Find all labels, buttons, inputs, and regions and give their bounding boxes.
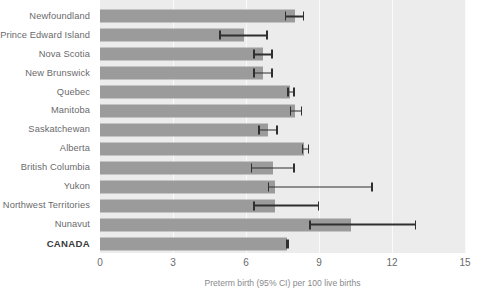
error-bar-line xyxy=(268,186,373,187)
error-bar-cap-hi xyxy=(293,88,294,97)
error-bar-line xyxy=(258,129,277,130)
bar-row xyxy=(100,45,465,64)
bar xyxy=(100,161,273,174)
bar-row xyxy=(100,215,465,234)
x-tick-label: 15 xyxy=(459,257,470,268)
error-bar-cap-lo xyxy=(219,31,220,40)
bar-row xyxy=(100,234,465,253)
bar-row xyxy=(100,177,465,196)
error-bar-cap-lo xyxy=(309,220,310,229)
bar xyxy=(100,67,263,80)
category-label: Newfoundland xyxy=(0,7,96,26)
error-bar-cap-hi xyxy=(293,163,294,172)
error-bar-cap-hi xyxy=(266,31,267,40)
error-bar-cap-lo xyxy=(253,50,254,59)
error-bar-cap-hi xyxy=(271,50,272,59)
error-bar xyxy=(287,88,294,97)
bar xyxy=(100,48,263,61)
error-bar-cap-lo xyxy=(258,125,259,134)
error-bar-cap-lo xyxy=(287,88,288,97)
error-bar-cap-hi xyxy=(271,69,272,78)
plot-area xyxy=(100,0,465,253)
category-label: Manitoba xyxy=(0,102,96,121)
bar xyxy=(100,180,275,193)
category-label: British Columbia xyxy=(0,158,96,177)
error-bar-cap-lo xyxy=(268,182,269,191)
category-label: Saskatchewan xyxy=(0,121,96,140)
error-bar-line xyxy=(253,205,319,206)
error-bar xyxy=(286,239,289,248)
error-bar-line xyxy=(309,224,416,225)
error-bar xyxy=(285,12,304,21)
error-bar-cap-lo xyxy=(253,201,254,210)
bar-row xyxy=(100,102,465,121)
error-bar xyxy=(253,69,272,78)
error-bar-cap-hi xyxy=(276,125,277,134)
error-bar-cap-lo xyxy=(251,163,252,172)
error-bar-line xyxy=(251,167,295,168)
bar-row xyxy=(100,158,465,177)
x-tick-label: 0 xyxy=(97,257,103,268)
error-bar-cap-hi xyxy=(288,239,289,248)
x-tick-label: 3 xyxy=(170,257,176,268)
bar-row xyxy=(100,139,465,158)
x-axis: 03691215 xyxy=(100,253,465,275)
bar-row xyxy=(100,121,465,140)
bar-row xyxy=(100,64,465,83)
bar-rows xyxy=(100,7,465,253)
category-label: Yukon xyxy=(0,177,96,196)
error-bar-cap-hi xyxy=(303,12,304,21)
error-bar-cap-lo xyxy=(253,69,254,78)
error-bar-cap-hi xyxy=(318,201,319,210)
preterm-birth-bar-chart: NewfoundlandPrince Edward IslandNova Sco… xyxy=(0,0,481,289)
category-labels-column: NewfoundlandPrince Edward IslandNova Sco… xyxy=(0,7,96,253)
error-bar-line xyxy=(285,16,304,17)
error-bar-line xyxy=(253,73,272,74)
category-label: Nova Scotia xyxy=(0,45,96,64)
error-bar-cap-lo xyxy=(302,144,303,153)
category-label: Alberta xyxy=(0,139,96,158)
x-tick-label: 6 xyxy=(243,257,249,268)
error-bar-cap-hi xyxy=(301,107,302,116)
bar xyxy=(100,199,275,212)
bar-row xyxy=(100,83,465,102)
bar xyxy=(100,105,295,118)
error-bar-line xyxy=(253,54,272,55)
error-bar-cap-hi xyxy=(371,182,372,191)
bar-row xyxy=(100,26,465,45)
gridline xyxy=(465,0,466,253)
error-bar xyxy=(219,31,268,40)
error-bar xyxy=(258,125,277,134)
category-label: New Brunswick xyxy=(0,64,96,83)
category-label: Northwest Territories xyxy=(0,196,96,215)
error-bar xyxy=(268,182,373,191)
error-bar-cap-lo xyxy=(290,107,291,116)
bar xyxy=(100,86,290,99)
category-label: CANADA xyxy=(0,234,96,253)
bar xyxy=(100,237,287,250)
error-bar-cap-hi xyxy=(308,144,309,153)
x-axis-caption: Preterm birth (95% CI) per 100 live birt… xyxy=(100,278,465,289)
category-label: Quebec xyxy=(0,83,96,102)
category-label: Prince Edward Island xyxy=(0,26,96,45)
error-bar-cap-hi xyxy=(415,220,416,229)
error-bar-cap-lo xyxy=(285,12,286,21)
error-bar xyxy=(253,201,319,210)
error-bar-line xyxy=(219,35,268,36)
bar xyxy=(100,142,304,155)
error-bar xyxy=(253,50,272,59)
x-tick-label: 9 xyxy=(316,257,322,268)
category-label: Nunavut xyxy=(0,215,96,234)
x-tick-label: 12 xyxy=(386,257,397,268)
bar xyxy=(100,123,268,136)
bar-row xyxy=(100,7,465,26)
error-bar xyxy=(309,220,416,229)
error-bar xyxy=(290,107,302,116)
error-bar xyxy=(302,144,309,153)
bar xyxy=(100,10,295,23)
bar-row xyxy=(100,196,465,215)
error-bar xyxy=(251,163,295,172)
